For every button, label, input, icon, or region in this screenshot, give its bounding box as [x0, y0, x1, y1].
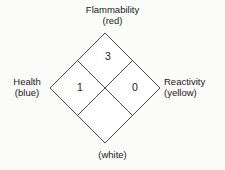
nfpa-fire-diamond-diagram: Flammability (red) Health (blue) Reactiv… — [0, 0, 225, 170]
label-health: Health (blue) — [4, 77, 50, 98]
label-flammability: Flammability (red) — [0, 5, 225, 26]
label-reactivity: Reactivity (yellow) — [164, 77, 223, 98]
label-health-color: (blue) — [4, 88, 50, 99]
label-flammability-color: (red) — [0, 16, 225, 27]
label-special-hazard-color: (white) — [98, 149, 127, 160]
quadrant-value-health: 1 — [67, 82, 93, 93]
quadrant-value-reactivity: 0 — [122, 82, 148, 93]
label-flammability-title: Flammability — [86, 4, 139, 15]
quadrant-value-flammability: 3 — [95, 51, 121, 62]
label-special-hazard: (white) — [0, 150, 225, 161]
label-reactivity-color: (yellow) — [164, 88, 223, 99]
label-reactivity-title: Reactivity — [164, 76, 205, 87]
label-health-title: Health — [13, 76, 40, 87]
